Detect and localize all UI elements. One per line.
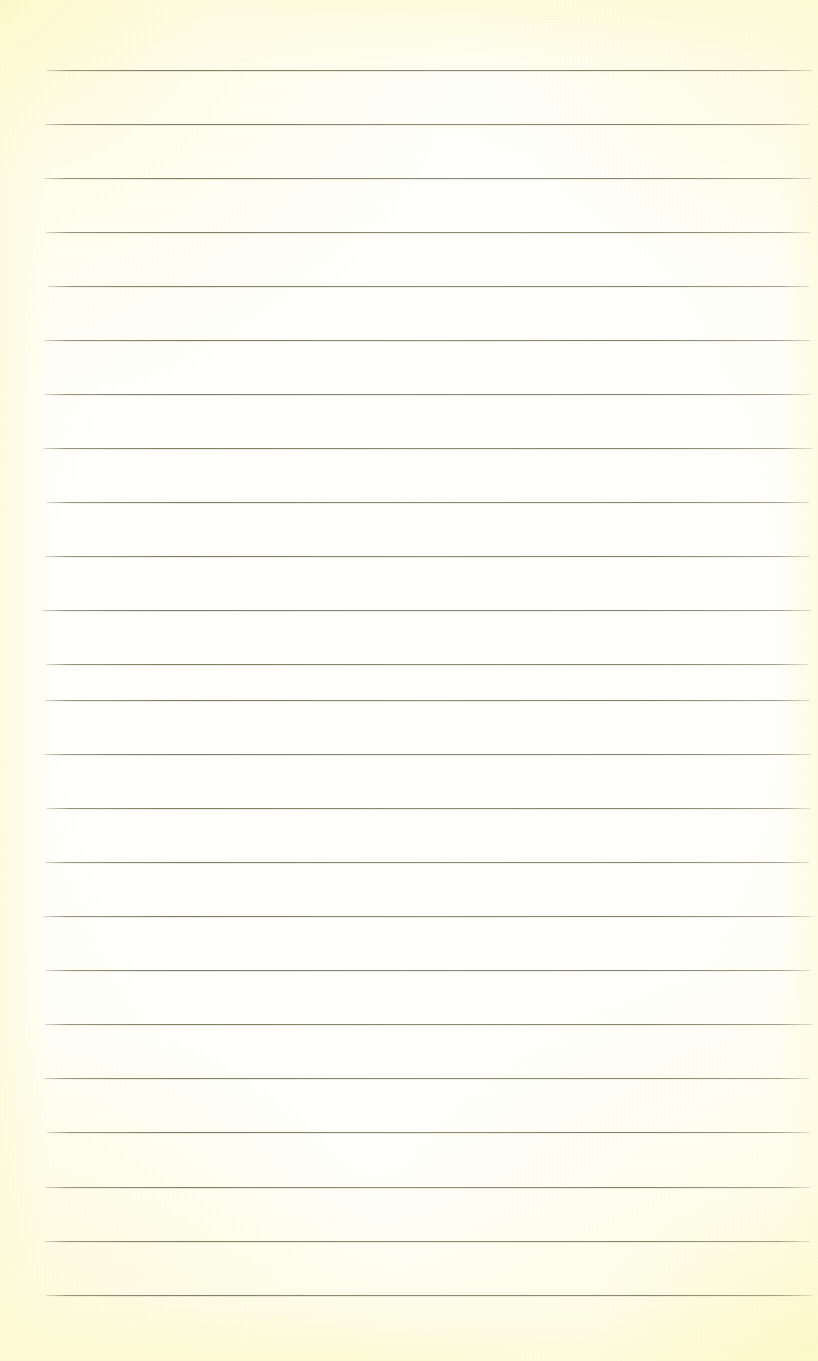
rule-line [48,286,809,287]
rule-line [45,700,810,701]
rule-line [45,1024,812,1025]
rule-line [45,862,809,863]
rule-line [46,232,810,233]
rule-line [47,1132,810,1133]
rule-line [44,1241,810,1242]
rule-line [47,70,812,71]
rule-line-group [0,0,818,1361]
page-vignette-top-right [0,0,818,1361]
rule-line [45,124,810,125]
rule-line [45,394,810,395]
rule-line [45,1187,811,1188]
rule-line [43,448,812,449]
rule-line [46,664,808,665]
rule-line [42,610,811,611]
page-vignette-top-left [0,0,818,1361]
page-vignette-bottom-left [0,0,818,1361]
rule-line [47,808,810,809]
rule-line [44,340,811,341]
rule-line [46,970,810,971]
page-vignette-left [0,0,818,1361]
rule-line [46,1295,812,1296]
rule-line [47,502,809,503]
page-vignette-right [0,0,818,1361]
rule-line [43,916,811,917]
rule-line [44,178,811,179]
page-vignette-top [0,0,818,1361]
page-vignette-bottom-right [0,0,818,1361]
rule-line [45,556,810,557]
page-vignette-bottom [0,0,818,1361]
rule-line [44,1078,809,1079]
scanned-page: Blank ruled notebook page [0,0,818,1361]
rule-line [44,754,811,755]
paper-grain-texture [0,0,818,1361]
